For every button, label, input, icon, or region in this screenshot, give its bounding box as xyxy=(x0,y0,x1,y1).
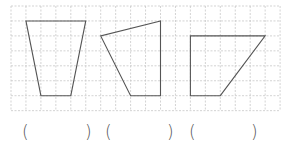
answer-2-close-paren: ) xyxy=(167,119,174,145)
answer-1-open-paren: ( xyxy=(22,119,29,145)
dotted-grid xyxy=(11,6,280,111)
answer-blanks: ( ) ( ) ( ) xyxy=(0,119,291,145)
answer-2-open-paren: ( xyxy=(105,119,112,145)
answer-3-open-paren: ( xyxy=(189,119,196,145)
answer-3-close-paren: ) xyxy=(251,119,258,145)
answer-1-close-paren: ) xyxy=(85,119,92,145)
grid-figure xyxy=(0,0,291,115)
